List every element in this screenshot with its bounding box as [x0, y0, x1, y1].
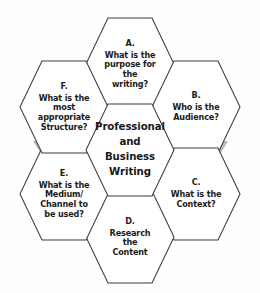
hexagon-diagram-canvas: [0, 0, 260, 293]
hexagon-diagram: A. What is the purpose for the writing? …: [0, 0, 260, 293]
